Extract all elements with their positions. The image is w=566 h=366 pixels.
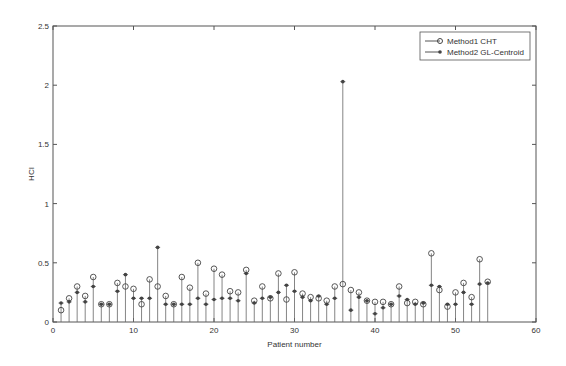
y-tick-label: 1	[45, 200, 50, 209]
x-tick-label: 0	[51, 326, 56, 335]
x-tick-label: 30	[290, 326, 299, 335]
x-tick-label: 60	[532, 326, 541, 335]
y-tick-label: 2	[45, 81, 50, 90]
y-axis-label: HCI	[27, 167, 36, 181]
legend-label-series2: Method2 GL-Centroid	[447, 48, 524, 57]
y-tick-label: 0	[45, 318, 50, 327]
x-tick-label: 40	[371, 326, 380, 335]
y-tick-label: 1.5	[38, 140, 50, 149]
x-tick-label: 50	[451, 326, 460, 335]
y-tick-label: 2.5	[38, 22, 50, 31]
x-tick-label: 20	[210, 326, 219, 335]
x-tick-label: 10	[129, 326, 138, 335]
legend-label-series1: Method1 CHT	[447, 37, 497, 46]
y-tick-label: 0.5	[38, 259, 50, 268]
stem-chart: 010203040506000.511.522.5Patient numberH…	[0, 0, 566, 366]
x-axis-label: Patient number	[267, 340, 322, 349]
legend-asterisk-icon	[438, 50, 442, 54]
